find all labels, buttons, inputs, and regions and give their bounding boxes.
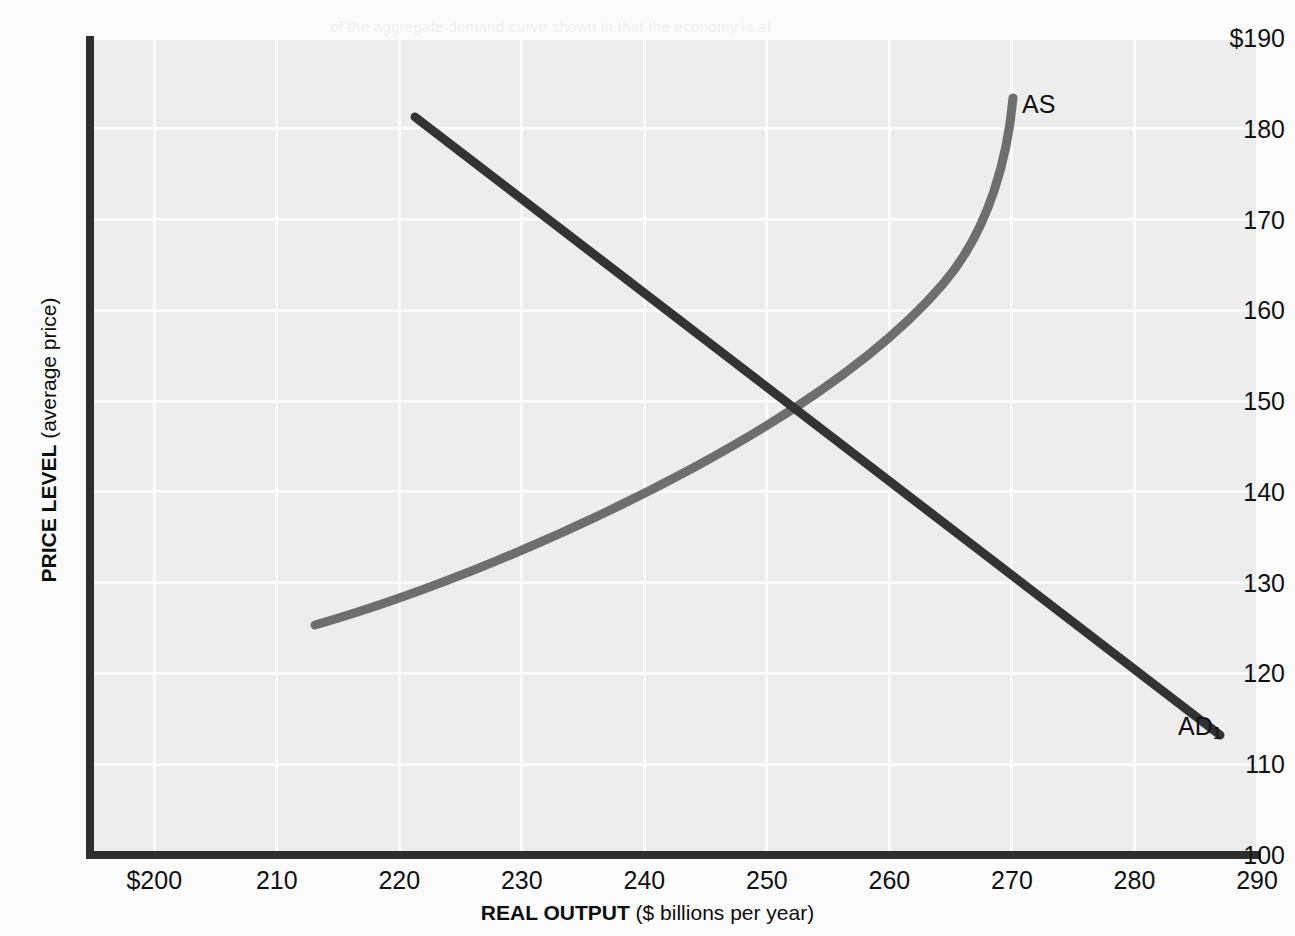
aggregate-supply-label: AS xyxy=(1022,90,1055,119)
y-axis-tick-label: 130 xyxy=(1209,568,1295,597)
y-axis-tick-label: 170 xyxy=(1209,205,1295,234)
x-axis-tick-label: 280 xyxy=(1114,866,1156,895)
x-axis-tick-label: 260 xyxy=(869,866,911,895)
aggregate-demand-curve xyxy=(415,117,1220,735)
aggregate-demand-label: AD1 xyxy=(1178,712,1222,741)
y-axis-tick-label: 180 xyxy=(1209,114,1295,143)
x-axis-tick-label: $200 xyxy=(126,866,182,895)
y-axis-tick-label: 110 xyxy=(1209,750,1295,779)
as-label-text: AS xyxy=(1022,90,1055,118)
y-axis-tick-label: $190 xyxy=(1209,24,1295,53)
x-axis-title: REAL OUTPUT ($ billions per year) xyxy=(0,901,1295,925)
y-axis-tick-label: 150 xyxy=(1209,387,1295,416)
aggregate-supply-curve xyxy=(315,98,1013,625)
x-axis-title-bold: REAL OUTPUT xyxy=(481,901,630,924)
y-axis-title: PRICE LEVEL (average price) xyxy=(37,130,61,750)
curve-layer xyxy=(93,38,1257,855)
x-axis-tick-label: 240 xyxy=(624,866,666,895)
y-axis-title-regular: (average price) xyxy=(37,298,60,445)
y-axis-tick-label: 140 xyxy=(1209,477,1295,506)
x-axis-tick-label: 210 xyxy=(256,866,298,895)
x-axis-tick-label: 230 xyxy=(501,866,543,895)
y-axis-title-bold: PRICE LEVEL xyxy=(37,445,60,583)
ad-label-text: AD xyxy=(1178,712,1213,740)
x-axis-line xyxy=(86,851,1261,859)
plot-area xyxy=(93,38,1257,855)
x-axis-tick-label: 220 xyxy=(378,866,420,895)
y-axis-tick-label: 120 xyxy=(1209,659,1295,688)
x-axis-title-regular: ($ billions per year) xyxy=(630,901,814,924)
ad-label-subscript: 1 xyxy=(1213,725,1222,742)
x-axis-tick-label: 290 xyxy=(1236,866,1278,895)
plot-inner xyxy=(93,38,1257,855)
y-axis-tick-label: 160 xyxy=(1209,296,1295,325)
x-axis-tick-label: 270 xyxy=(991,866,1033,895)
y-axis-line xyxy=(86,36,94,859)
chart-figure: of the aggregate demand curve shown in t… xyxy=(0,0,1295,936)
x-axis-tick-label: 250 xyxy=(746,866,788,895)
